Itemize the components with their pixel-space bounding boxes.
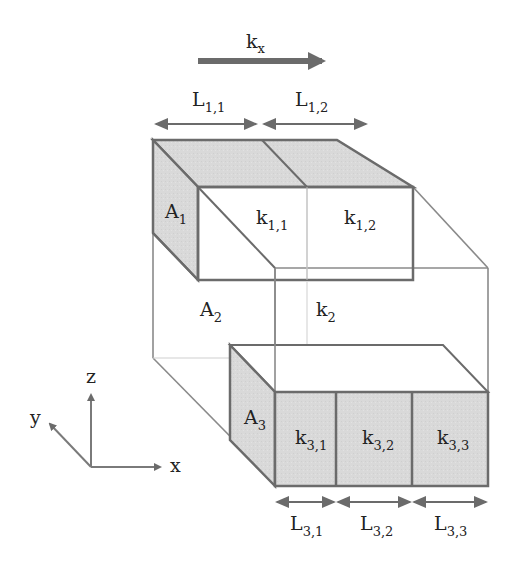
length-label-1-2: L1,2 <box>295 88 328 115</box>
top-block <box>153 140 413 280</box>
length-label-3-3: L3,3 <box>434 512 467 539</box>
length-label-3-1: L3,1 <box>290 512 323 539</box>
length-label-3-2: L3,2 <box>360 512 393 539</box>
coordinate-axes <box>50 395 160 467</box>
bottom-block <box>230 268 488 486</box>
axis-label-z: z <box>86 365 96 387</box>
flow-label: kx <box>246 30 266 56</box>
length-label-1-1: L1,1 <box>192 88 225 115</box>
axis-label-x: x <box>170 454 181 476</box>
axis-label-y: y <box>29 406 41 428</box>
area-label-2: A2 <box>199 298 222 325</box>
layered-block-diagram: kx L1,1 L1,2 <box>0 0 514 568</box>
perm-label-2: k2 <box>316 298 336 325</box>
